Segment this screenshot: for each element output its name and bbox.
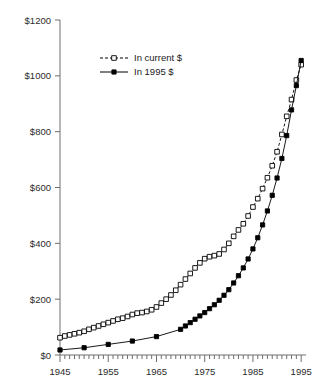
legend-marker-0 bbox=[112, 56, 117, 61]
data-point-open-square bbox=[77, 330, 82, 335]
data-point-open-square bbox=[106, 320, 111, 325]
data-point-open-square bbox=[58, 335, 63, 340]
data-point-filled-square bbox=[227, 288, 231, 292]
x-axis-tick-label: 1975 bbox=[194, 366, 215, 377]
data-point-open-square bbox=[198, 261, 203, 266]
y-axis-tick-label: $1000 bbox=[25, 70, 51, 81]
data-point-open-square bbox=[173, 288, 178, 293]
data-point-open-square bbox=[231, 234, 236, 239]
data-point-filled-square bbox=[193, 317, 197, 321]
y-axis-tick-label: $0 bbox=[40, 350, 51, 361]
data-point-open-square bbox=[130, 312, 135, 317]
data-point-filled-square bbox=[265, 209, 269, 213]
data-point-filled-square bbox=[299, 58, 303, 62]
x-axis-tick-label: 1995 bbox=[291, 366, 312, 377]
data-point-open-square bbox=[120, 316, 125, 321]
data-point-filled-square bbox=[222, 293, 226, 297]
data-point-filled-square bbox=[198, 314, 202, 318]
data-point-open-square bbox=[183, 277, 188, 282]
chart-axes bbox=[60, 20, 306, 355]
x-axis-tick-label: 1965 bbox=[146, 366, 167, 377]
data-point-open-square bbox=[212, 253, 217, 258]
data-point-filled-square bbox=[285, 133, 289, 137]
data-point-filled-square bbox=[58, 348, 62, 352]
data-point-open-square bbox=[96, 324, 101, 329]
data-point-filled-square bbox=[246, 257, 250, 261]
data-point-filled-square bbox=[82, 346, 86, 350]
data-point-open-square bbox=[149, 307, 154, 312]
data-point-open-square bbox=[140, 310, 145, 315]
data-point-open-square bbox=[299, 62, 304, 67]
data-point-open-square bbox=[193, 266, 198, 271]
data-point-filled-square bbox=[154, 334, 158, 338]
data-point-open-square bbox=[72, 331, 77, 336]
data-point-open-square bbox=[91, 325, 96, 330]
data-point-filled-square bbox=[256, 236, 260, 240]
data-point-open-square bbox=[164, 297, 169, 302]
data-point-open-square bbox=[251, 205, 256, 210]
x-axis-tick-label: 1955 bbox=[98, 366, 119, 377]
x-axis-tick-label: 1985 bbox=[242, 366, 263, 377]
data-point-open-square bbox=[145, 309, 150, 314]
data-point-open-square bbox=[270, 163, 275, 168]
data-point-open-square bbox=[125, 314, 130, 319]
data-point-open-square bbox=[265, 175, 270, 180]
data-point-open-square bbox=[280, 132, 285, 137]
data-point-open-square bbox=[207, 254, 212, 259]
data-point-filled-square bbox=[188, 321, 192, 325]
data-point-filled-square bbox=[183, 324, 187, 328]
data-point-filled-square bbox=[130, 339, 134, 343]
y-axis-tick-label: $200 bbox=[30, 294, 51, 305]
chart-canvas: $0$200$400$600$800$1000$1200194519551965… bbox=[0, 0, 319, 388]
data-point-filled-square bbox=[289, 108, 293, 112]
data-point-open-square bbox=[63, 334, 68, 339]
data-point-filled-square bbox=[106, 342, 110, 346]
data-point-open-square bbox=[255, 196, 260, 201]
data-point-open-square bbox=[241, 221, 246, 226]
data-point-open-square bbox=[284, 114, 289, 119]
data-point-open-square bbox=[260, 186, 265, 191]
data-point-open-square bbox=[217, 252, 222, 257]
data-point-filled-square bbox=[203, 310, 207, 314]
data-point-open-square bbox=[135, 311, 140, 316]
data-point-filled-square bbox=[236, 274, 240, 278]
data-point-open-square bbox=[236, 228, 241, 233]
data-point-filled-square bbox=[217, 298, 221, 302]
data-point-open-square bbox=[82, 329, 87, 334]
data-point-filled-square bbox=[260, 223, 264, 227]
data-point-open-square bbox=[202, 256, 207, 261]
legend-label-1: In 1995 $ bbox=[134, 66, 174, 77]
data-point-filled-square bbox=[294, 84, 298, 88]
legend-marker-1 bbox=[112, 70, 116, 74]
line-chart: $0$200$400$600$800$1000$1200194519551965… bbox=[0, 0, 319, 388]
data-point-open-square bbox=[275, 149, 280, 154]
data-point-filled-square bbox=[207, 307, 211, 311]
data-point-open-square bbox=[222, 247, 227, 252]
data-point-open-square bbox=[227, 241, 232, 246]
y-axis-tick-label: $400 bbox=[30, 238, 51, 249]
data-point-filled-square bbox=[178, 327, 182, 331]
legend-label-0: In current $ bbox=[134, 52, 183, 63]
data-point-filled-square bbox=[275, 176, 279, 180]
data-point-filled-square bbox=[232, 281, 236, 285]
data-point-open-square bbox=[116, 317, 121, 322]
data-point-open-square bbox=[178, 282, 183, 287]
series-line-1 bbox=[60, 60, 301, 350]
data-point-open-square bbox=[169, 293, 174, 298]
series-line-0 bbox=[60, 65, 301, 338]
data-point-filled-square bbox=[212, 303, 216, 307]
data-point-open-square bbox=[87, 327, 92, 332]
y-axis-tick-label: $1200 bbox=[25, 15, 51, 26]
data-point-filled-square bbox=[241, 266, 245, 270]
x-axis-tick-label: 1945 bbox=[49, 366, 70, 377]
data-point-open-square bbox=[246, 214, 251, 219]
data-point-open-square bbox=[67, 333, 72, 338]
data-point-filled-square bbox=[280, 156, 284, 160]
data-point-open-square bbox=[111, 319, 116, 324]
data-point-filled-square bbox=[251, 247, 255, 251]
data-point-open-square bbox=[101, 322, 106, 327]
data-point-open-square bbox=[159, 301, 164, 306]
data-point-open-square bbox=[154, 305, 159, 310]
y-axis-tick-label: $600 bbox=[30, 182, 51, 193]
y-axis-tick-label: $800 bbox=[30, 126, 51, 137]
